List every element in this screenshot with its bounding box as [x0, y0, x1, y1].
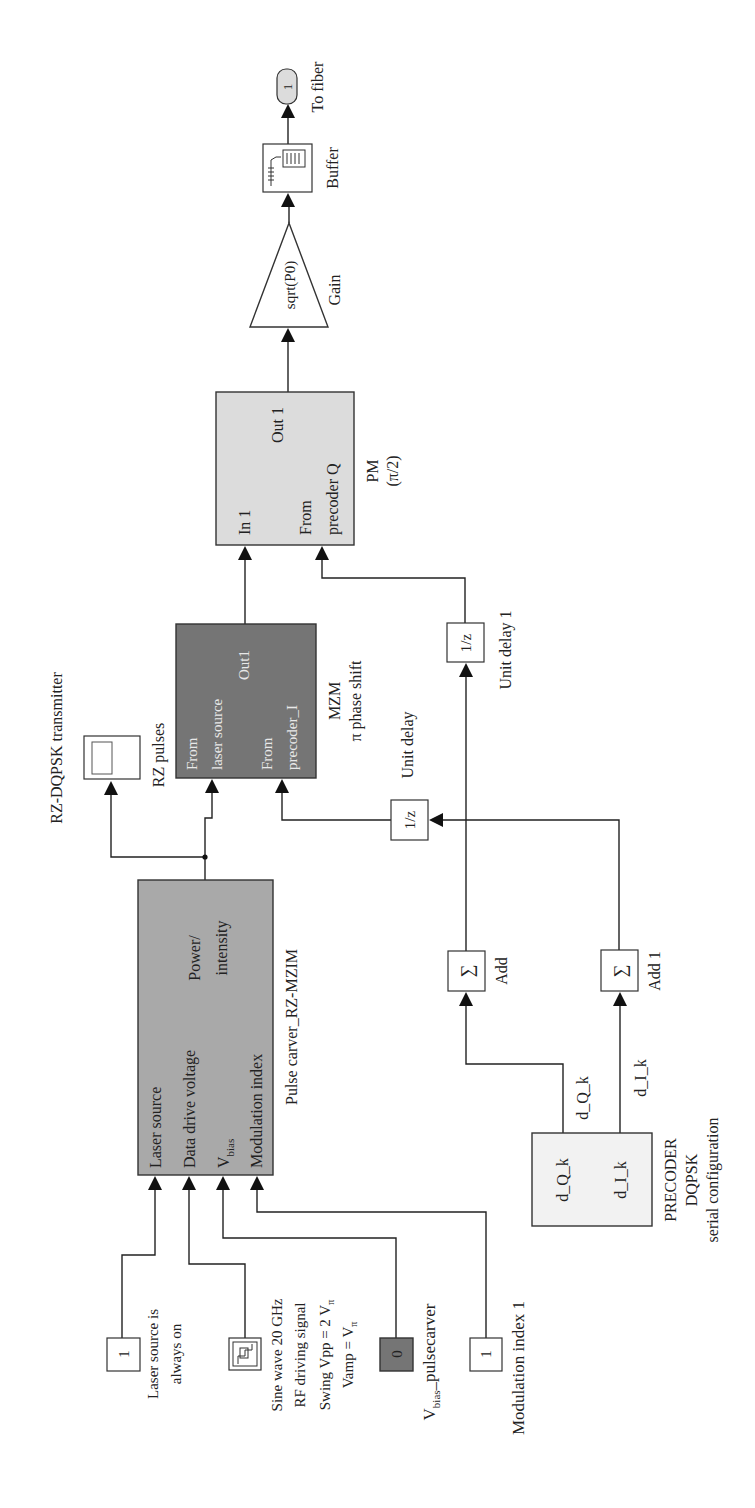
wire-ud1-pm	[322, 560, 465, 623]
precoder-out-q: d_Q_k	[554, 1158, 571, 1202]
signal-label-dik: d_I_k	[632, 1059, 649, 1096]
mzm-caption-1: MZM	[326, 682, 343, 720]
scope-caption: RZ pulses	[150, 723, 168, 787]
sine-caption-1: Sine wave 20 GHz	[269, 1298, 285, 1411]
laser-const-caption-1: Laser source is	[145, 1309, 161, 1399]
wire-sine	[189, 1190, 245, 1338]
precoder-out-i: d_I_k	[612, 1161, 629, 1198]
mzm-block[interactable]: From laser source From precoder_I Out1 M…	[176, 624, 365, 778]
precoder-caption-2: DQPSK	[683, 1153, 700, 1206]
junction-dot	[202, 854, 207, 859]
wire-dqk	[466, 1006, 563, 1133]
precoder-caption-1: PRECODER	[662, 1138, 679, 1222]
mzm-in2-l1: From	[259, 737, 275, 770]
simulink-diagram: 1 Laser source is always on Sine wave 20…	[0, 0, 755, 1508]
add-caption: Add	[493, 957, 510, 985]
buffer-block[interactable]: Buffer	[263, 144, 341, 192]
outport-caption: To fiber	[309, 61, 326, 113]
add-1-block[interactable]: ∑ Add 1	[601, 950, 663, 991]
precoder-caption-3: serial configuration	[704, 1118, 722, 1243]
unit-delay-1-value: 1/z	[458, 633, 474, 652]
outport-to-fiber[interactable]: 1 To fiber	[277, 61, 326, 113]
sine-caption-4: Vamp = Vπ	[340, 1322, 359, 1389]
pm-in2-l2: precoder Q	[324, 463, 342, 535]
pm-block[interactable]: In 1 From precoder Q Out 1 PM (π/2)	[216, 392, 402, 545]
pc-port-mod: Modulation index	[248, 1054, 265, 1168]
pc-port-data: Data drive voltage	[181, 1050, 199, 1168]
precoder-block[interactable]: d_Q_k d_I_k PRECODER DQPSK serial config…	[532, 1118, 722, 1243]
mod-const-value: 1	[478, 1350, 494, 1358]
pm-in1: In 1	[236, 510, 253, 535]
pc-caption: Pulse carver_RZ-MZIM	[283, 949, 300, 1105]
gain-caption: Gain	[326, 274, 343, 305]
mzm-out: Out1	[236, 650, 252, 680]
mzm-in1-l1: From	[184, 737, 200, 770]
mzm-in1-l2: laser source	[209, 698, 225, 770]
add-symbol: ∑	[457, 965, 477, 978]
sine-caption-3: Swing Vpp = 2 Vπ	[317, 1300, 336, 1411]
wire-to-mzm	[205, 793, 212, 857]
add-1-caption: Add 1	[646, 951, 663, 991]
pm-in2-l1: From	[297, 500, 314, 535]
unit-delay-value: 1/z	[402, 810, 418, 829]
laser-const-block[interactable]: 1 Laser source is always on	[107, 1309, 184, 1399]
unit-delay-1-caption: Unit delay 1	[497, 610, 515, 689]
mod-const-block[interactable]: 1 Modulation index 1	[470, 1301, 528, 1435]
diagram-title: RZ-DQPSK transmitter	[48, 672, 65, 824]
wire-add1-ud	[443, 820, 619, 950]
pc-port-laser: Laser source	[147, 1087, 164, 1168]
wire-ud-mzm	[282, 793, 391, 820]
vbias-const-block[interactable]: 0 Vbias_pulsecarver	[380, 1303, 442, 1420]
add-block[interactable]: ∑ Add	[448, 951, 510, 991]
sine-caption-2: RF driving signal	[292, 1302, 308, 1407]
buffer-caption: Buffer	[324, 147, 341, 189]
pm-caption-1: PM	[364, 459, 381, 482]
mod-caption: Modulation index 1	[509, 1301, 528, 1435]
pc-port-out-2: intensity	[213, 920, 231, 975]
gain-value: sqrt(P0)	[282, 261, 299, 309]
pm-out: Out 1	[269, 407, 286, 443]
unit-delay-caption: Unit delay	[399, 711, 417, 778]
laser-const-caption-2: always on	[168, 1323, 184, 1384]
mzm-in2-l2: precoder_I	[284, 705, 300, 770]
pc-port-out-1: Power/	[186, 935, 203, 981]
outport-value: 1	[280, 84, 295, 91]
rz-scope-block[interactable]: RZ pulses	[84, 723, 168, 787]
unit-delay-block[interactable]: 1/z Unit delay	[391, 711, 428, 840]
gain-block[interactable]: sqrt(P0) Gain	[250, 223, 343, 327]
vbias-const-value: 0	[389, 1350, 405, 1358]
wire-to-scope	[111, 795, 205, 857]
sine-wave-block[interactable]: Sine wave 20 GHz RF driving signal Swing…	[229, 1298, 359, 1411]
pm-caption-2: (π/2)	[384, 455, 402, 486]
laser-const-value: 1	[116, 1350, 132, 1358]
pulse-carver-block[interactable]: Laser source Data drive voltage Vbias Mo…	[138, 880, 300, 1175]
vbias-caption: Vbias_pulsecarver	[420, 1303, 442, 1420]
unit-delay-1-block[interactable]: 1/z Unit delay 1	[447, 610, 515, 689]
add-1-symbol: ∑	[610, 965, 630, 978]
signal-label-dqk: d_Q_k	[574, 1076, 591, 1120]
mzm-caption-2: π phase shift	[347, 660, 365, 742]
